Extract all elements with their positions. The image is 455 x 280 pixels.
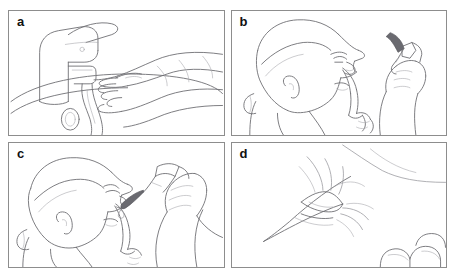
panel-c-instil-drop: c xyxy=(8,142,225,268)
panel-b-illustration xyxy=(232,11,447,135)
panel-label-c: c xyxy=(17,147,24,160)
panel-d-illustration xyxy=(232,143,447,267)
panel-label-a: a xyxy=(17,15,24,28)
panel-label-b: b xyxy=(240,15,248,28)
panel-a-wash-hands: a xyxy=(8,10,225,136)
panel-d-close-eye: d xyxy=(231,142,448,268)
panel-label-d: d xyxy=(240,147,248,160)
panel-c-illustration xyxy=(9,143,224,267)
figure-container: a xyxy=(0,0,455,280)
panel-b-tilt-head: b xyxy=(231,10,448,136)
panel-a-illustration xyxy=(9,11,224,135)
panel-grid: a xyxy=(8,10,447,268)
